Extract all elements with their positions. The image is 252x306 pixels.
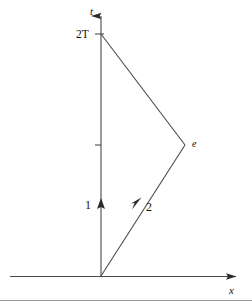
segment-label-1: 1: [85, 199, 91, 211]
spacetime-diagram-figure: t x 2T 1 2 e: [0, 0, 252, 306]
segment-label-2: 2: [146, 201, 152, 213]
worldline-return-line: [101, 34, 185, 145]
time-axis-label: t: [90, 6, 93, 17]
worldline-outbound-line: [101, 145, 185, 276]
diagram-canvas: [0, 0, 252, 306]
worldline-outbound-arrowhead: [131, 198, 142, 210]
tick-label-2T: 2T: [76, 29, 89, 41]
event-vertex-label: e: [192, 139, 196, 149]
space-axis-label: x: [229, 285, 234, 296]
